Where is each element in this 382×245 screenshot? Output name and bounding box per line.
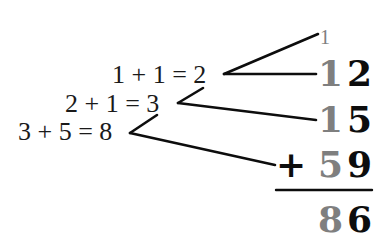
result-ones-digit: 6 [347, 201, 372, 237]
row3-carry-digit: 5 [318, 146, 343, 182]
row2-carry-digit: 1 [318, 101, 343, 137]
row2-digit: 5 [347, 101, 372, 137]
equation-3: 3 + 5 = 8 [18, 119, 112, 145]
row3-digit: 9 [347, 146, 372, 182]
line-eq2-up [178, 88, 203, 103]
result-tens-digit: 8 [318, 201, 343, 237]
line-eq3-to-row3 [130, 133, 275, 165]
line-eq2-to-row2 [178, 103, 316, 120]
row1-digit: 2 [347, 55, 372, 91]
plus-operator: + [276, 146, 306, 182]
equation-1: 1 + 1 = 2 [112, 62, 206, 88]
top-carry-digit: 1 [320, 27, 330, 47]
equation-2: 2 + 1 = 3 [65, 91, 159, 117]
line-eq1-to-top-carry [224, 34, 318, 74]
row1-carry-digit: 1 [318, 55, 343, 91]
